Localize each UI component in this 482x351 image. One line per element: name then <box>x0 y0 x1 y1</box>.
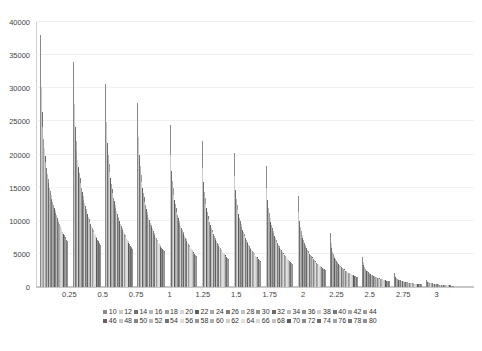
bar <box>196 257 197 287</box>
legend-label: 52 <box>155 317 163 324</box>
legend-item[interactable]: 20 <box>180 308 193 315</box>
legend-item[interactable]: 26 <box>226 308 239 315</box>
plot-area <box>36 22 474 287</box>
legend-item[interactable]: 60 <box>210 317 223 324</box>
legend-label: 12 <box>124 308 132 315</box>
legend-swatch-icon <box>134 319 138 323</box>
legend-label: 22 <box>201 308 209 315</box>
legend-item[interactable]: 72 <box>302 317 315 324</box>
legend-swatch-icon <box>287 319 291 323</box>
legend-item[interactable]: 80 <box>363 317 376 324</box>
legend-row-2: 464850525456586062646668707274767880 <box>103 317 378 324</box>
x-axis-tick-label: 1.5 <box>231 290 241 299</box>
legend-item[interactable]: 76 <box>333 317 346 324</box>
legend-item[interactable]: 30 <box>256 308 269 315</box>
legend-label: 20 <box>185 308 193 315</box>
bar <box>164 253 165 287</box>
legend-item[interactable]: 10 <box>103 308 116 315</box>
legend-item[interactable]: 14 <box>134 308 147 315</box>
bars-layer <box>36 22 474 287</box>
legend-item[interactable]: 78 <box>348 317 361 324</box>
legend-item[interactable]: 64 <box>241 317 254 324</box>
legend-label: 48 <box>124 317 132 324</box>
bar <box>325 270 326 287</box>
legend-item[interactable]: 32 <box>272 308 285 315</box>
legend-item[interactable]: 34 <box>287 308 300 315</box>
legend-swatch-icon <box>363 310 367 314</box>
x-axis-tick-label: 1 <box>167 290 171 299</box>
legend-item[interactable]: 48 <box>119 317 132 324</box>
legend-swatch-icon <box>210 319 214 323</box>
x-axis-tick-label: 0.75 <box>129 290 144 299</box>
legend-swatch-icon <box>287 310 291 314</box>
legend-label: 80 <box>369 317 377 324</box>
legend-item[interactable]: 50 <box>134 317 147 324</box>
legend-item[interactable]: 42 <box>348 308 361 315</box>
legend-label: 42 <box>354 308 362 315</box>
legend-item[interactable]: 68 <box>272 317 285 324</box>
legend-swatch-icon <box>134 310 138 314</box>
legend-item[interactable]: 52 <box>149 317 162 324</box>
y-axis-tick-label: 15000 <box>9 183 30 192</box>
legend-swatch-icon <box>119 319 123 323</box>
x-axis-tick-label: 0.25 <box>62 290 77 299</box>
legend-label: 68 <box>277 317 285 324</box>
legend-item[interactable]: 38 <box>317 308 330 315</box>
legend-swatch-icon <box>210 310 214 314</box>
legend-item[interactable]: 46 <box>103 317 116 324</box>
legend-item[interactable]: 18 <box>165 308 178 315</box>
chart-legend: 101214161820222426283032343638404244 464… <box>0 308 482 324</box>
legend-swatch-icon <box>165 310 169 314</box>
x-axis-tick-label: 2.25 <box>329 290 344 299</box>
legend-label: 50 <box>139 317 147 324</box>
legend-item[interactable]: 58 <box>195 317 208 324</box>
y-axis-tick-label: 5000 <box>13 249 30 258</box>
legend-swatch-icon <box>165 319 169 323</box>
legend-label: 70 <box>292 317 300 324</box>
y-axis-tick-label: 20000 <box>9 150 30 159</box>
bar-chart: 0500010000150002000025000300003500040000… <box>0 0 482 351</box>
bar <box>67 241 68 287</box>
legend-label: 64 <box>247 317 255 324</box>
legend-item[interactable]: 28 <box>241 308 254 315</box>
legend-label: 34 <box>292 308 300 315</box>
legend-item[interactable]: 36 <box>302 308 315 315</box>
legend-swatch-icon <box>333 319 337 323</box>
legend-item[interactable]: 16 <box>149 308 162 315</box>
legend-item[interactable]: 54 <box>165 317 178 324</box>
legend-label: 30 <box>262 308 270 315</box>
x-axis-tick-label: 2.5 <box>365 290 375 299</box>
legend-item[interactable]: 12 <box>119 308 132 315</box>
y-axis-tick-label: 35000 <box>9 51 30 60</box>
legend-item[interactable]: 66 <box>256 317 269 324</box>
legend-item[interactable]: 24 <box>210 308 223 315</box>
legend-swatch-icon <box>256 319 260 323</box>
legend-swatch-icon <box>348 319 352 323</box>
legend-label: 54 <box>170 317 178 324</box>
legend-label: 74 <box>323 317 331 324</box>
legend-label: 76 <box>338 317 346 324</box>
legend-label: 14 <box>139 308 147 315</box>
legend-item[interactable]: 22 <box>195 308 208 315</box>
legend-swatch-icon <box>103 319 107 323</box>
legend-label: 24 <box>216 308 224 315</box>
x-axis-tick-label: 1.25 <box>196 290 211 299</box>
legend-label: 60 <box>216 317 224 324</box>
bar <box>100 245 101 287</box>
legend-item[interactable]: 70 <box>287 317 300 324</box>
legend-item[interactable]: 56 <box>180 317 193 324</box>
legend-swatch-icon <box>272 319 276 323</box>
legend-swatch-icon <box>241 319 245 323</box>
bar <box>357 277 358 287</box>
legend-item[interactable]: 62 <box>226 317 239 324</box>
legend-label: 56 <box>185 317 193 324</box>
legend-swatch-icon <box>348 310 352 314</box>
legend-swatch-icon <box>149 310 153 314</box>
legend-label: 28 <box>247 308 255 315</box>
x-axis-line <box>36 287 474 288</box>
legend-item[interactable]: 40 <box>333 308 346 315</box>
legend-item[interactable]: 44 <box>363 308 376 315</box>
legend-label: 44 <box>369 308 377 315</box>
legend-item[interactable]: 74 <box>317 317 330 324</box>
legend-swatch-icon <box>226 310 230 314</box>
